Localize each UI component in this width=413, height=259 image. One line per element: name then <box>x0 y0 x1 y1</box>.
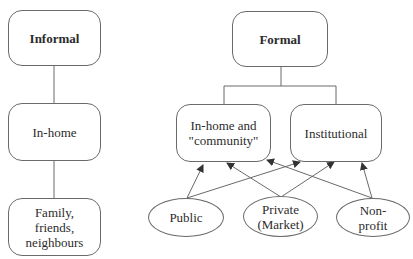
node-nonprofit: Non- profit <box>336 198 410 237</box>
node-public-label: Public <box>169 210 202 225</box>
arrow-private-community <box>227 163 281 197</box>
arrow-private-institutional <box>281 162 334 197</box>
arrow-nonprofit-community <box>267 160 372 198</box>
node-informal-label: Informal <box>30 31 80 46</box>
node-nonprofit-label: Non- profit <box>359 203 388 233</box>
node-institutional: Institutional <box>290 104 382 162</box>
node-institutional-label: Institutional <box>305 126 368 141</box>
node-inhome-community-label: In-home and "community" <box>189 118 259 148</box>
node-formal: Formal <box>232 11 328 67</box>
arrow-public-community <box>187 165 203 198</box>
node-family-label: Family, friends, neighbours <box>26 205 84 250</box>
node-private-label: Private (Market) <box>257 202 303 232</box>
arrow-nonprofit-institutional <box>362 163 372 198</box>
node-informal-inhome-label: In-home <box>32 125 76 140</box>
node-informal-inhome: In-home <box>8 103 101 161</box>
node-public: Public <box>148 198 224 237</box>
node-informal: Informal <box>8 10 101 66</box>
node-formal-label: Formal <box>259 32 300 47</box>
arrow-public-institutional <box>187 162 300 198</box>
node-family-friends-neighbours: Family, friends, neighbours <box>8 198 101 256</box>
node-inhome-community: In-home and "community" <box>176 104 271 162</box>
node-private-market: Private (Market) <box>243 196 318 237</box>
